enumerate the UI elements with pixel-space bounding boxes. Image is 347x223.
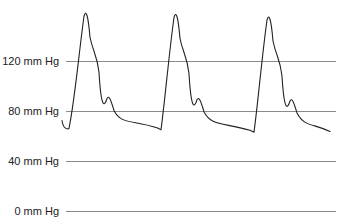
- pressure-waveform: [0, 0, 347, 223]
- arterial-pressure-chart: 120 mm Hg 80 mm Hg 40 mm Hg 0 mm Hg: [0, 0, 347, 223]
